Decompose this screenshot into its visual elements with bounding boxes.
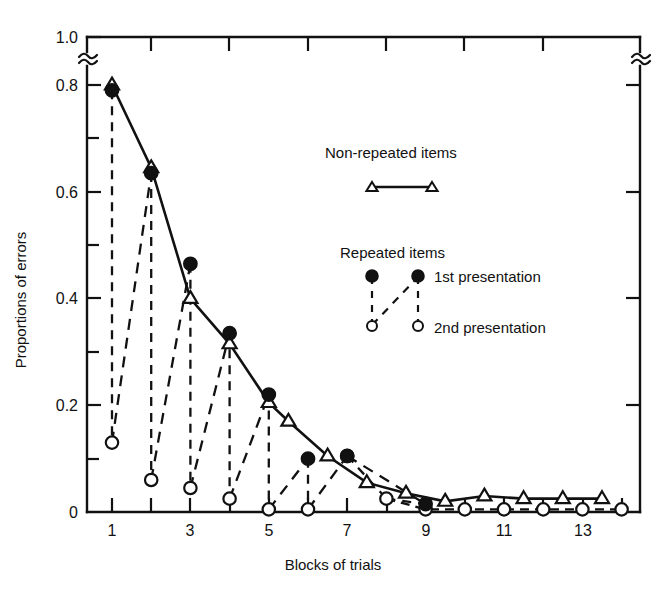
ytick-label-0.6: 0.6 xyxy=(56,184,78,201)
legend-nonrepeated-sample xyxy=(366,182,437,191)
xtick-label-11: 11 xyxy=(496,522,513,539)
y-axis-tick-labels: 1.0 0.8 0.6 0.4 0.2 0 xyxy=(56,29,78,521)
open-triangle-icon-2 xyxy=(426,182,437,191)
repeated-pair-diagonal-link xyxy=(151,264,190,480)
xtick-label-9: 9 xyxy=(422,522,431,539)
plot-frame xyxy=(87,37,640,512)
y-axis-title: Proportions of errors xyxy=(12,232,29,369)
filled-circle-marker xyxy=(341,449,354,462)
open-circle-marker xyxy=(106,436,118,448)
x-axis-title: Blocks of trials xyxy=(285,556,382,573)
y-axis-ticks xyxy=(87,37,101,459)
legend-second-presentation-label: 2nd presentation xyxy=(434,319,546,336)
filled-circle-icon-2 xyxy=(412,270,424,282)
legend-nonrepeated-title: Non-repeated items xyxy=(325,144,457,161)
right-axis-break-icon xyxy=(632,54,650,59)
left-axis-break-icon-2 xyxy=(79,60,97,65)
filled-circle-marker xyxy=(223,327,236,340)
open-circle-marker xyxy=(145,474,157,486)
repeated-pair-diagonal-link xyxy=(269,459,308,510)
open-circle-marker xyxy=(302,503,314,515)
open-circle-icon xyxy=(367,321,377,331)
repeated-pair-diagonal-link xyxy=(230,395,269,499)
open-circle-marker xyxy=(380,492,392,504)
open-triangle-marker xyxy=(556,491,570,503)
xtick-label-7: 7 xyxy=(343,522,352,539)
filled-circle-marker xyxy=(145,166,158,179)
open-circle-marker xyxy=(615,503,627,515)
open-circle-marker xyxy=(498,503,510,515)
repeated-pair-diagonal-link xyxy=(190,333,229,488)
axis-break-marks xyxy=(79,54,650,65)
xtick-label-3: 3 xyxy=(186,522,195,539)
open-circle-marker xyxy=(263,503,275,515)
open-triangle-icon xyxy=(366,182,377,191)
filled-circle-marker xyxy=(262,388,275,401)
filled-circle-marker xyxy=(184,257,197,270)
legend-dashed-diagonal xyxy=(372,277,418,325)
open-circle-marker xyxy=(576,503,588,515)
ytick-label-1.0: 1.0 xyxy=(56,29,78,46)
open-circle-marker xyxy=(459,503,471,515)
ytick-label-0.2: 0.2 xyxy=(56,397,78,414)
xtick-label-5: 5 xyxy=(265,522,274,539)
xtick-label-13: 13 xyxy=(574,522,592,539)
open-circle-marker xyxy=(223,492,235,504)
left-axis-break-icon xyxy=(79,54,97,59)
legend-repeated-sample xyxy=(366,270,424,331)
ytick-label-0.8: 0.8 xyxy=(56,77,78,94)
open-circle-marker xyxy=(537,503,549,515)
open-triangle-marker xyxy=(595,491,609,503)
open-circle-marker xyxy=(184,482,196,494)
x-axis-tick-labels: 1 3 5 7 9 11 13 xyxy=(108,522,592,539)
legend: Non-repeated items Repeated items 1st pr… xyxy=(325,144,546,336)
legend-first-presentation-label: 1st presentation xyxy=(434,268,541,285)
filled-circle-icon xyxy=(366,270,378,282)
filled-circle-marker xyxy=(419,497,432,510)
repeated-pair-diagonal-link xyxy=(112,173,151,443)
right-axis-break-icon-2 xyxy=(632,60,650,65)
ytick-label-0.4: 0.4 xyxy=(56,290,78,307)
open-circle-icon-2 xyxy=(413,321,423,331)
top-axis-ticks xyxy=(151,37,543,51)
error-proportion-chart: 1.0 0.8 0.6 0.4 0.2 0 xyxy=(0,0,665,591)
filled-circle-marker xyxy=(301,452,314,465)
ytick-label-0: 0 xyxy=(69,504,78,521)
figure-container: 1.0 0.8 0.6 0.4 0.2 0 xyxy=(0,0,665,591)
right-axis-ticks xyxy=(626,85,640,405)
filled-circle-marker xyxy=(105,84,118,97)
xtick-label-1: 1 xyxy=(108,522,117,539)
open-triangle-marker xyxy=(477,489,491,501)
legend-repeated-title: Repeated items xyxy=(340,244,445,261)
